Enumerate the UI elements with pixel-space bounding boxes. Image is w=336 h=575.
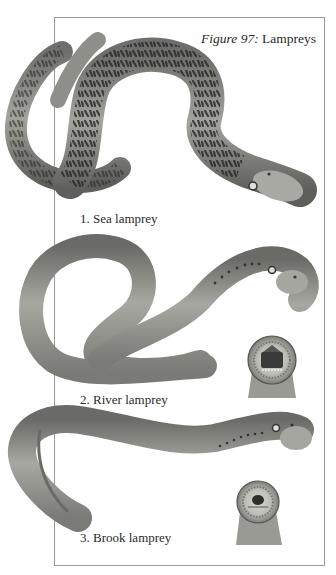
specimen-label-river-lamprey: 2. River lamprey xyxy=(80,392,168,408)
sea-lamprey-illustration xyxy=(16,40,307,207)
brook-oral-disc-illustration xyxy=(236,481,282,545)
river-oral-disc-illustration xyxy=(248,336,296,398)
figure-caption: Figure 97: Lampreys xyxy=(201,31,316,47)
figure-title: Lampreys xyxy=(262,31,316,46)
figure-plate: Figure 97: Lampreys 1. Sea lamprey 2. Ri… xyxy=(0,0,336,575)
specimen-label-brook-lamprey: 3. Brook lamprey xyxy=(80,530,171,546)
lamprey-illustrations xyxy=(0,0,336,575)
figure-number: Figure 97: xyxy=(201,31,259,46)
specimen-label-sea-lamprey: 1. Sea lamprey xyxy=(80,211,158,227)
eye-icon xyxy=(249,182,257,190)
